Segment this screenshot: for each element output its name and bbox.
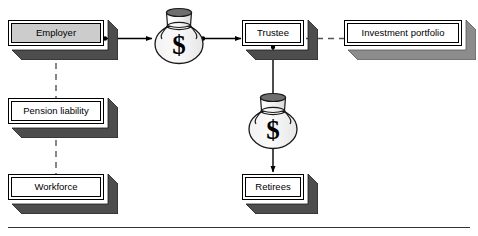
pension-liability-label: Pension liability (11, 101, 101, 121)
investment-portfolio-frame: Investment portfolio (344, 20, 462, 46)
node-pension-liability[interactable]: Pension liability (8, 98, 118, 138)
employer-label: Employer (11, 23, 101, 43)
trustee-label: Trustee (245, 23, 301, 43)
node-investment-portfolio[interactable]: Investment portfolio (344, 20, 476, 60)
connector-money-bag-to-trustee (201, 36, 241, 40)
money-bag-contributions (155, 9, 203, 64)
retirees-frame: Retirees (242, 174, 304, 200)
node-trustee[interactable]: Trustee (242, 20, 318, 60)
footer-rule (8, 227, 470, 228)
node-workforce[interactable]: Workforce (8, 174, 118, 214)
investment-portfolio-label: Investment portfolio (347, 23, 459, 43)
money-bag-benefits (249, 94, 297, 149)
trustee-frame: Trustee (242, 20, 304, 46)
employer-frame: Employer (8, 20, 104, 46)
node-retirees[interactable]: Retirees (242, 174, 318, 214)
workforce-label: Workforce (11, 177, 101, 197)
workforce-frame: Workforce (8, 174, 104, 200)
pension-flow-diagram: $ $ Employer Pension liability Workforce (0, 0, 478, 236)
retirees-label: Retirees (245, 177, 301, 197)
pension-liability-frame: Pension liability (8, 98, 104, 124)
node-employer[interactable]: Employer (8, 20, 118, 60)
